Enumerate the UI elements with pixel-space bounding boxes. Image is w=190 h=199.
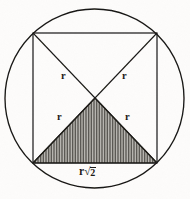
shaded-triangle: [33, 98, 157, 163]
label-base-hypotenuse: r√2: [79, 166, 96, 178]
label-radius-top-left: r: [61, 71, 66, 82]
geometry-figure: r r r r r√2: [0, 0, 190, 199]
label-radius-top-right: r: [122, 71, 127, 82]
label-radius-bottom-left: r: [57, 112, 62, 123]
radical-group: √2: [84, 166, 96, 178]
label-radius-bottom-right: r: [125, 112, 130, 123]
radicand: 2: [90, 167, 96, 178]
